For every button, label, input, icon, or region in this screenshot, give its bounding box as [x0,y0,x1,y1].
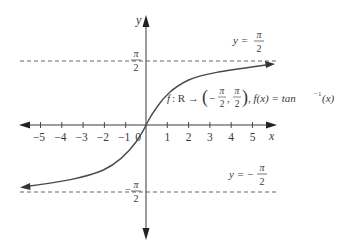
x-tick-label: 1 [164,131,170,143]
svg-text:, f(x) = tan: , f(x) = tan [248,92,296,105]
svg-text:π: π [220,86,225,96]
svg-text:y =: y = [232,34,248,46]
upper-asymptote-label: y = π 2 [232,29,264,54]
x-axis-right-arrow-icon [266,122,277,129]
x-tick-labels: −5 −4 −3 −2 −1 0 1 2 3 4 5 [33,131,256,143]
curve-right-arrow-icon [265,61,275,68]
x-tick-label: 4 [228,131,234,143]
y-axis-down-arrow-icon [143,228,150,240]
svg-text:−: − [125,184,131,195]
y-tick-neg-pi-over-2: − π 2 [125,179,141,204]
svg-text:2: 2 [134,62,139,73]
svg-text:π: π [133,48,139,59]
svg-text:: R →: : R → [172,92,199,104]
svg-text:π: π [259,162,265,173]
arctan-graph: −5 −4 −3 −2 −1 0 1 2 3 4 5 x y π 2 − π [0,0,339,248]
svg-text:(x): (x) [322,92,335,105]
x-tick-label: −4 [54,131,66,143]
svg-text:−: − [209,92,215,104]
svg-text:π: π [133,179,139,190]
lower-asymptote-label: y = − π 2 [228,162,267,187]
svg-text:π: π [256,29,262,40]
svg-text:,: , [227,92,230,104]
x-tick-label: −3 [75,131,87,143]
x-axis-label: x [268,129,275,143]
x-tick-label: 5 [250,131,256,143]
svg-text:π: π [235,86,240,96]
x-tick-label: −5 [33,131,45,143]
y-axis-up-arrow-icon [143,15,150,27]
svg-text:2: 2 [235,99,240,109]
svg-text:y = −: y = − [228,168,254,180]
x-axis-left-arrow-icon [19,122,30,129]
x-axis: −5 −4 −3 −2 −1 0 1 2 3 4 5 x [19,122,277,144]
curve-left-arrow-icon [20,183,31,190]
svg-text:−1: −1 [314,90,322,98]
svg-text:2: 2 [134,193,139,204]
y-axis-label: y [135,13,142,27]
function-label: f : R → ( − π 2 , π 2 ) , f(x) = tan −1 … [167,86,335,109]
y-tick-pi-over-2: π 2 [131,48,141,73]
x-tick-label: 3 [207,131,213,143]
svg-text:(: ( [202,87,208,108]
svg-text:2: 2 [257,43,262,54]
svg-text:2: 2 [220,99,225,109]
x-tick-label: −2 [97,131,109,143]
svg-text:2: 2 [260,176,265,187]
x-tick-label: −1 [118,131,130,143]
x-tick-label: 2 [186,131,192,143]
